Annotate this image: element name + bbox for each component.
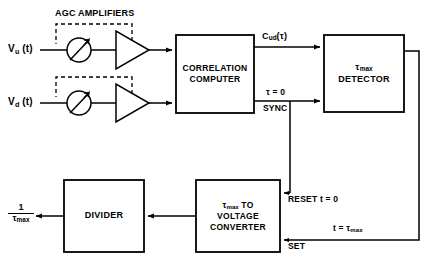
agc-amplifiers-heading: AGC AMPLIFIERS: [55, 8, 134, 18]
block-label-tmax-detector: τmax DETECTOR: [324, 35, 404, 112]
variable-gain-arrowhead-2: [84, 93, 89, 99]
signal-label-set: SET: [288, 242, 305, 252]
signal-label-cud-tau: Cud(τ): [262, 31, 287, 42]
variable-gain-arrowhead-1: [84, 40, 89, 46]
correlation-computer-line1: CORRELATION: [183, 63, 248, 74]
tmax-detector-sub: max: [360, 66, 373, 73]
signal-label-tau-zero: τ = 0: [266, 88, 285, 98]
input-label-vd: Vd (t): [8, 96, 33, 109]
tmax-detector-line1: τmax: [355, 62, 372, 74]
cud-suffix: (τ): [277, 31, 288, 41]
t-equals-tmax-sub: max: [350, 226, 362, 233]
input-vu-base: V: [8, 43, 15, 54]
converter-line3: CONVERTER: [210, 222, 266, 233]
block-diagram: AGC AMPLIFIERS Vu (t) Vd (t) CORRELATION…: [0, 0, 432, 269]
signal-label-reset-t-zero: RESET t = 0: [288, 195, 338, 205]
converter-line1: τmax TO: [222, 200, 253, 211]
cud-base: C: [262, 31, 269, 41]
cud-sub: ud: [269, 34, 277, 41]
amplifier-triangle-2: [116, 84, 149, 122]
amplifier-triangle-1: [116, 31, 149, 69]
divider-line1: DIVIDER: [85, 210, 124, 221]
converter-line2: VOLTAGE: [217, 211, 259, 222]
converter-to: TO: [239, 200, 254, 210]
output-numerator: 1: [8, 203, 34, 212]
output-denominator: τmax: [8, 214, 34, 224]
input-vd-base: V: [8, 96, 15, 107]
block-label-divider: DIVIDER: [64, 180, 144, 252]
input-label-vu: Vu (t): [8, 43, 33, 56]
output-denominator-sub: max: [17, 216, 30, 223]
input-vu-suffix: (t): [19, 43, 33, 54]
signal-label-sync: SYNC: [263, 104, 287, 114]
input-vd-suffix: (t): [19, 96, 33, 107]
correlation-computer-line2: COMPUTER: [189, 74, 240, 85]
converter-sub: max: [226, 203, 238, 210]
output-label-one-over-tmax: 1 τmax: [8, 203, 34, 224]
signal-label-t-equals-tmax: t = τmax: [333, 224, 363, 234]
block-label-tmax-to-voltage-converter: τmax TO VOLTAGE CONVERTER: [196, 180, 280, 252]
block-label-correlation-computer: CORRELATION COMPUTER: [176, 35, 254, 113]
tmax-detector-line2: DETECTOR: [338, 74, 390, 85]
t-equals-tmax-base: t = τ: [333, 223, 350, 233]
